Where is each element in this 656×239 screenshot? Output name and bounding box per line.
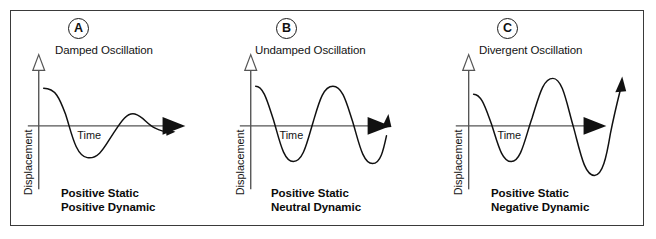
panel-caption-b: Positive Static Neutral Dynamic (271, 187, 361, 214)
y-axis-label: Displacement (22, 129, 34, 195)
y-axis-arrowhead-icon (33, 55, 45, 71)
panel-undamped-oscillation: B Undamped Oscillation Time Displacement… (223, 11, 435, 225)
x-axis-label: Time (497, 129, 521, 141)
x-axis-arrowhead-icon (584, 117, 607, 135)
caption-line-static: Positive Static (61, 187, 155, 201)
panel-damped-oscillation: A Damped Oscillation Time Displacement P… (11, 11, 223, 225)
panel-caption-a: Positive Static Positive Dynamic (61, 187, 155, 214)
panel-caption-c: Positive Static Negative Dynamic (491, 187, 589, 214)
undamped-wave-curve (256, 86, 387, 163)
caption-line-static: Positive Static (491, 187, 589, 201)
x-axis-label: Time (77, 129, 101, 141)
x-axis-label: Time (279, 129, 303, 141)
y-axis-label: Displacement (234, 129, 246, 195)
caption-line-dynamic: Neutral Dynamic (271, 201, 361, 215)
damped-wave-curve (44, 88, 169, 158)
caption-line-dynamic: Positive Dynamic (61, 201, 155, 215)
divergent-wave-arrowhead-icon (615, 76, 626, 92)
y-axis-label: Displacement (452, 129, 464, 195)
figure-frame: A Damped Oscillation Time Displacement P… (10, 10, 644, 226)
panel-divergent-oscillation: C Divergent Oscillation Time Displacemen… (435, 11, 645, 225)
y-axis-arrowhead-icon (463, 55, 475, 71)
y-axis-arrowhead-icon (245, 55, 257, 71)
caption-line-static: Positive Static (271, 187, 361, 201)
undamped-wave-arrowhead-icon (382, 114, 392, 128)
caption-line-dynamic: Negative Dynamic (491, 201, 589, 215)
